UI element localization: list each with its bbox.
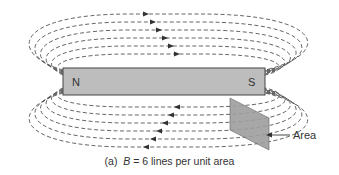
figure-caption: (a) B = 6 lines per unit area	[0, 155, 339, 167]
area-plate: Area	[230, 98, 317, 150]
caption-text: = 6 lines per unit area	[133, 155, 234, 167]
field-arrows-bottom	[143, 105, 180, 150]
bar-magnet: N S	[63, 68, 265, 95]
area-label: Area	[293, 129, 317, 141]
caption-symbol: B	[123, 155, 130, 167]
south-pole-label: S	[248, 76, 255, 88]
field-arrows-top	[143, 12, 180, 57]
magnetic-field-diagram: N S Area	[0, 0, 339, 175]
caption-prefix: (a)	[105, 155, 118, 167]
north-pole-label: N	[72, 76, 80, 88]
